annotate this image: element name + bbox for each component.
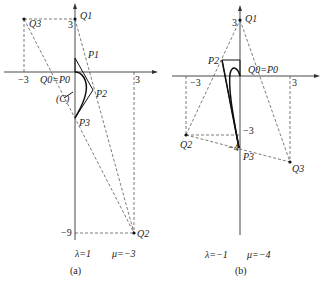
tick-y-neg3: −3 <box>243 125 254 136</box>
point-q3 <box>22 17 25 20</box>
tick-y-3: 3 <box>68 19 73 30</box>
label-p2: P2 <box>95 88 107 99</box>
label-q0-p0: Q0=P0 <box>40 74 70 85</box>
lambda-label-b: λ=−1 <box>204 249 228 260</box>
label-p3: P3 <box>242 151 254 162</box>
tick-x-3: 3 <box>135 74 140 85</box>
lambda-label-a: λ=1 <box>74 248 91 259</box>
tick-x-neg3: −3 <box>18 74 29 85</box>
label-p2: P2 <box>207 55 219 66</box>
curve-c <box>75 72 86 118</box>
guide-q1-q3 <box>240 20 290 162</box>
point-q2 <box>132 231 135 234</box>
label-q3: Q3 <box>29 18 41 29</box>
control-polygon <box>75 58 93 118</box>
y-axis-arrow-icon <box>238 5 242 11</box>
tick-y-3: 3 <box>232 17 237 28</box>
bezier-diagram-figure: Q3 Q1 3 P1 −3 Q0=P0 3 (C) P2 P3 −9 Q2 λ=… <box>0 0 329 288</box>
label-p3: P3 <box>78 117 90 128</box>
tick-x-3: 3 <box>292 77 297 88</box>
y-axis-arrow-icon <box>73 3 77 9</box>
panel-b: 3 Q1 P2 Q0=P0 −3 3 −3 Q2 −4 P3 Q3 λ=−1 μ… <box>172 5 320 277</box>
label-p1: P1 <box>87 49 99 60</box>
caption-b: (b) <box>235 265 247 277</box>
label-q3: Q3 <box>292 163 304 174</box>
x-axis-arrow-icon <box>152 70 158 74</box>
point-q1 <box>73 17 76 20</box>
label-q0-p0: Q0=P0 <box>248 64 278 75</box>
label-curve-c: (C) <box>56 93 70 105</box>
caption-a: (a) <box>70 265 81 277</box>
panel-a: Q3 Q1 3 P1 −3 Q0=P0 3 (C) P2 P3 −9 Q2 λ=… <box>4 3 158 277</box>
mu-label-b: μ=−4 <box>246 249 271 260</box>
tick-y-neg4: −4 <box>228 142 239 153</box>
label-q2: Q2 <box>180 139 192 150</box>
point-q1 <box>238 18 241 21</box>
label-q2: Q2 <box>137 228 149 239</box>
tick-x-neg3: −3 <box>190 77 201 88</box>
tick-y-neg9: −9 <box>61 227 72 238</box>
label-q1: Q1 <box>245 13 257 24</box>
label-q1: Q1 <box>80 10 92 21</box>
point-q2 <box>184 133 187 136</box>
mu-label-a: μ=−3 <box>111 248 136 259</box>
x-axis-arrow-icon <box>314 74 320 78</box>
